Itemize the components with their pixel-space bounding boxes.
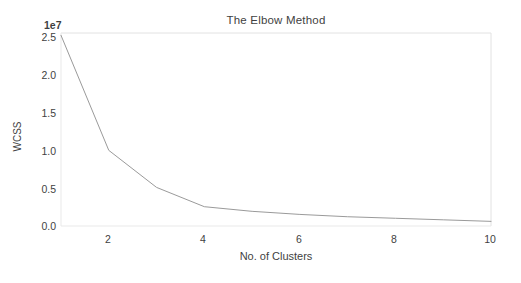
plot-background — [61, 33, 491, 226]
plot-area — [0, 0, 521, 283]
chart-figure: The Elbow Method 1e7 WCSS No. of Cluster… — [0, 0, 521, 283]
